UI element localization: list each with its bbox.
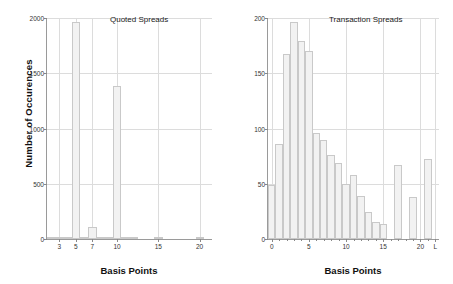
figure-root: Number of Occurences 0500100015002000357…	[0, 0, 453, 284]
y-tick-mark	[265, 129, 268, 130]
y-tick-mark	[44, 239, 47, 240]
histogram-bar	[350, 175, 357, 239]
x-minor-tick-mark	[368, 239, 369, 241]
x-tick-mark	[435, 239, 436, 242]
y-tick-mark	[44, 18, 47, 19]
x-axis-title-right: Basis Points	[267, 265, 439, 276]
x-tick-label: 5	[307, 243, 311, 250]
x-minor-tick-mark	[324, 239, 325, 241]
y-tick-label: 1000	[30, 125, 44, 132]
histogram-bar	[113, 86, 121, 239]
y-tick-label: 500	[33, 180, 44, 187]
histogram-bar	[154, 237, 162, 239]
histogram-bar	[55, 237, 63, 239]
plot-title-right: Transaction Spreads	[329, 15, 403, 24]
x-minor-tick-mark	[391, 239, 392, 241]
histogram-bar	[335, 163, 342, 239]
x-tick-label: 15	[380, 243, 387, 250]
y-tick-mark	[44, 129, 47, 130]
y-tick-label: 1500	[30, 70, 44, 77]
x-tick-mark	[59, 239, 60, 242]
x-tick-mark	[117, 239, 118, 242]
y-tick-label: 100	[254, 125, 265, 132]
histogram-bar	[313, 133, 320, 239]
x-tick-label: 0	[270, 243, 274, 250]
x-tick-mark	[158, 239, 159, 242]
y-tick-mark	[44, 73, 47, 74]
gridline-vertical	[200, 18, 201, 239]
x-tick-label: 20	[417, 243, 424, 250]
x-tick-mark	[272, 239, 273, 242]
x-minor-tick-mark	[287, 239, 288, 241]
gridline-vertical	[92, 18, 93, 239]
x-minor-tick-mark	[354, 239, 355, 241]
y-tick-mark	[265, 73, 268, 74]
x-tick-label: L	[433, 243, 437, 250]
x-tick-label: 5	[74, 243, 78, 250]
y-tick-label: 0	[261, 236, 265, 243]
histogram-bar	[88, 227, 96, 239]
histogram-bar	[121, 237, 129, 239]
histogram-bar	[47, 237, 55, 239]
x-minor-tick-mark	[331, 239, 332, 241]
y-tick-mark	[44, 184, 47, 185]
y-tick-mark	[265, 239, 268, 240]
x-tick-mark	[76, 239, 77, 242]
histogram-bar	[97, 237, 105, 239]
plot-title-left: Quoted Spreads	[110, 15, 168, 24]
histogram-bar	[372, 222, 379, 239]
gridline-vertical	[59, 18, 60, 239]
x-tick-label: 15	[155, 243, 162, 250]
histogram-bar	[424, 159, 431, 239]
x-tick-label: 3	[58, 243, 62, 250]
histogram-bar	[305, 51, 312, 239]
x-tick-label: 7	[91, 243, 95, 250]
x-tick-label: 20	[196, 243, 203, 250]
histogram-bar	[409, 197, 416, 239]
x-tick-mark	[420, 239, 421, 242]
histogram-bar	[268, 185, 275, 239]
histogram-bar	[380, 224, 387, 239]
x-minor-tick-mark	[428, 239, 429, 241]
x-minor-tick-mark	[294, 239, 295, 241]
y-tick-label: 2000	[30, 15, 44, 22]
gridline-vertical	[158, 18, 159, 239]
plot-area-left: 0500100015002000357101520	[46, 18, 212, 240]
x-tick-mark	[200, 239, 201, 242]
panel-quoted-spreads: Number of Occurences 0500100015002000357…	[0, 0, 228, 284]
histogram-bar	[327, 155, 334, 239]
x-minor-tick-mark	[279, 239, 280, 241]
histogram-bar	[290, 22, 297, 239]
x-minor-tick-mark	[398, 239, 399, 241]
plot-area-right: 05010015020005101520L	[267, 18, 439, 240]
histogram-bar	[342, 184, 349, 239]
gridline-vertical	[420, 18, 421, 239]
histogram-bar	[298, 41, 305, 239]
panel-transaction-spreads: 05010015020005101520L Transaction Spread…	[225, 0, 453, 284]
x-tick-label: 10	[114, 243, 121, 250]
histogram-bar	[105, 237, 113, 239]
y-tick-label: 50	[258, 180, 265, 187]
histogram-bar	[80, 237, 88, 239]
x-minor-tick-mark	[339, 239, 340, 241]
y-tick-mark	[265, 18, 268, 19]
x-tick-label: 10	[342, 243, 349, 250]
x-tick-mark	[92, 239, 93, 242]
y-axis-title-left: Number of Occurences	[23, 24, 34, 204]
histogram-bar	[72, 22, 80, 239]
y-tick-label: 0	[40, 236, 44, 243]
x-tick-mark	[309, 239, 310, 242]
y-tick-label: 200	[254, 15, 265, 22]
histogram-bar	[394, 165, 401, 239]
histogram-bar	[283, 54, 290, 239]
x-minor-tick-mark	[361, 239, 362, 241]
x-minor-tick-mark	[406, 239, 407, 241]
histogram-bar	[275, 144, 282, 239]
histogram-bar	[196, 237, 204, 239]
x-tick-mark	[383, 239, 384, 242]
gridline-vertical	[435, 18, 436, 239]
x-axis-title-left: Basis Points	[46, 265, 212, 276]
x-minor-tick-mark	[301, 239, 302, 241]
histogram-bar	[320, 140, 327, 239]
histogram-bar	[130, 237, 138, 239]
